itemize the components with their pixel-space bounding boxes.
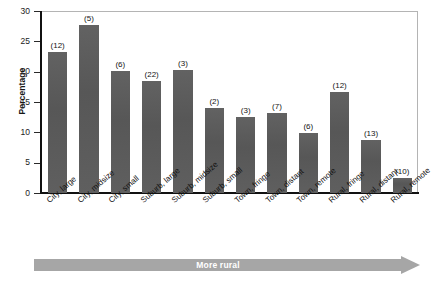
bar (330, 92, 349, 193)
y-axis-tick-label: 20 (4, 66, 30, 76)
bar-value-label: (3) (228, 106, 263, 115)
y-axis-tick-label: 10 (4, 127, 30, 137)
y-axis-tick (34, 102, 40, 103)
more-rural-arrow: More rural (34, 256, 420, 274)
bar-value-label: (12) (322, 81, 357, 90)
bar-value-label: (22) (134, 70, 169, 79)
bar (48, 52, 67, 193)
y-axis-tick-label: 30 (4, 6, 30, 16)
bar-group: (12) (48, 11, 67, 193)
bar (236, 117, 255, 193)
bar-group: (3) (173, 11, 192, 193)
bar (142, 81, 161, 193)
bar (361, 140, 380, 193)
y-axis-tick-label: 0 (4, 188, 30, 198)
bar-series: (12)(5)(6)(22)(3)(2)(3)(7)(6)(12)(13)(10… (42, 11, 418, 193)
bar (79, 25, 98, 193)
bar-value-label: (2) (197, 97, 232, 106)
bar-value-label: (7) (259, 102, 294, 111)
bar (205, 108, 224, 193)
bar-group: (5) (79, 11, 98, 193)
bar-group: (3) (236, 11, 255, 193)
bar-value-label: (6) (103, 60, 138, 69)
y-axis-tick-label: 15 (4, 97, 30, 107)
bar (299, 133, 318, 193)
y-axis-tick (34, 72, 40, 73)
bar (173, 70, 192, 193)
bar-group: (7) (267, 11, 286, 193)
y-axis-tick (34, 132, 40, 133)
bar-value-label: (6) (291, 122, 326, 131)
bar-group: (10) (393, 11, 412, 193)
bar-group: (13) (361, 11, 380, 193)
bar (267, 113, 286, 193)
arrow-label: More rural (34, 260, 402, 270)
bar-group: (22) (142, 11, 161, 193)
y-axis-tick (34, 11, 40, 12)
bar-value-label: (3) (165, 59, 200, 68)
arrow-head-icon (401, 256, 420, 274)
bar (111, 71, 130, 193)
bar-value-label: (12) (40, 41, 75, 50)
y-axis-tick-label: 25 (4, 36, 30, 46)
bar-group: (6) (111, 11, 130, 193)
y-axis-tick (34, 163, 40, 164)
bar-group: (6) (299, 11, 318, 193)
bar-group: (2) (205, 11, 224, 193)
bar-value-label: (10) (385, 167, 420, 176)
bar-value-label: (5) (71, 14, 106, 23)
bar-value-label: (13) (353, 129, 388, 138)
y-axis-tick-label: 5 (4, 157, 30, 167)
bar (393, 178, 412, 193)
bar-group: (12) (330, 11, 349, 193)
y-axis-tick (34, 193, 40, 194)
